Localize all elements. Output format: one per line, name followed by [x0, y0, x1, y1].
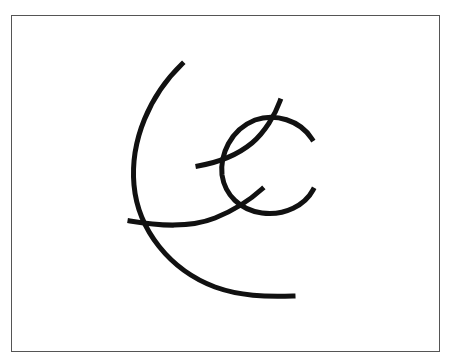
lower-diagonal-curve [130, 189, 262, 225]
upper-diagonal-curve [198, 101, 280, 166]
small-c-arc [222, 117, 313, 213]
drawing-canvas [0, 0, 454, 361]
large-arc [133, 64, 293, 296]
